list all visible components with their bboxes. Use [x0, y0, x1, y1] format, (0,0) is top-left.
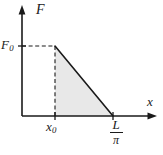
x-axis-arrowhead-icon	[148, 113, 158, 120]
fraction-numerator: L	[103, 118, 129, 132]
plot-canvas	[0, 0, 163, 155]
y-tick-label-F0-base: F	[1, 37, 9, 52]
y-tick-label-F0-subscript: 0	[9, 43, 13, 53]
x-tick-label-x0: x0	[46, 120, 56, 135]
y-tick-label-F0: F0	[1, 38, 14, 53]
y-axis-arrowhead-icon	[19, 5, 26, 15]
x-tick-label-x0-subscript: 0	[52, 125, 56, 135]
y-axis-label: F	[36, 3, 45, 17]
x-tick-label-L-over-pi: L π	[103, 118, 129, 146]
x-tick-label-x0-base: x	[46, 119, 52, 134]
x-axis-label: x	[147, 95, 153, 108]
fraction-denominator: π	[103, 134, 129, 147]
force-vs-position-figure: F x F0 x0 L π	[0, 0, 163, 155]
